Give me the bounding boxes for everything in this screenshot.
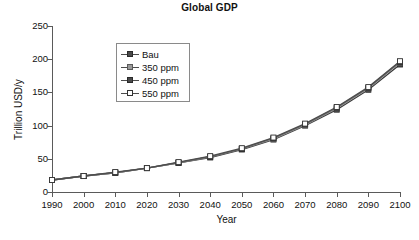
chart-legend: Bau350 ppm450 ppm550 ppm	[116, 43, 190, 102]
legend-marker-icon	[127, 90, 133, 96]
series-350-ppm	[50, 60, 403, 183]
data-point	[50, 178, 55, 183]
data-point	[144, 166, 149, 171]
legend-item-550-ppm[interactable]: 550 ppm	[121, 87, 189, 100]
legend-item-350-ppm[interactable]: 350 ppm	[121, 61, 189, 74]
legend-label: 550 ppm	[142, 88, 179, 99]
legend-item-450-ppm[interactable]: 450 ppm	[121, 74, 189, 87]
legend-label: 350 ppm	[142, 62, 179, 73]
data-point	[334, 105, 339, 110]
data-point	[366, 85, 371, 90]
series-line	[52, 61, 400, 180]
data-point	[113, 170, 118, 175]
data-point	[208, 154, 213, 159]
series-line	[52, 65, 400, 181]
legend-swatch	[121, 67, 139, 68]
series-550-ppm	[50, 59, 403, 183]
legend-item-bau[interactable]: Bau	[121, 48, 189, 61]
series-bau	[50, 62, 403, 183]
data-point	[239, 146, 244, 151]
chart-series-layer	[0, 0, 419, 240]
series-line	[52, 62, 400, 180]
legend-marker-icon	[127, 51, 133, 57]
data-point	[271, 135, 276, 140]
data-point	[81, 174, 86, 179]
series-line	[52, 63, 400, 181]
chart-container: Global GDP 050100150200250 1990200020102…	[0, 0, 419, 240]
data-point	[398, 59, 403, 64]
legend-swatch	[121, 54, 139, 55]
legend-marker-icon	[127, 77, 133, 83]
legend-swatch	[121, 93, 139, 94]
data-point	[303, 121, 308, 126]
legend-swatch	[121, 80, 139, 81]
legend-label: Bau	[142, 49, 159, 60]
data-point	[176, 160, 181, 165]
series-450-ppm	[50, 59, 403, 182]
legend-label: 450 ppm	[142, 75, 179, 86]
legend-marker-icon	[127, 64, 133, 70]
